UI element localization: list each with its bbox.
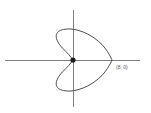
origin-cusp-point bbox=[70, 57, 75, 62]
cardioid-upper-lobe bbox=[56, 29, 112, 60]
cardioid-lower-lobe bbox=[56, 60, 112, 91]
cardioid-figure: (8, 0) bbox=[0, 0, 151, 113]
x-intercept-label: (8, 0) bbox=[116, 64, 128, 70]
plot-canvas bbox=[0, 0, 151, 113]
